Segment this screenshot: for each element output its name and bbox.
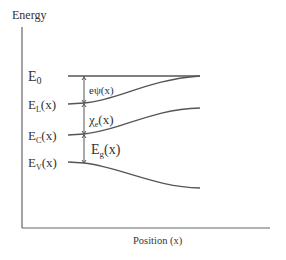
level-ev-curve	[68, 162, 200, 188]
band-diagram: Energy Position (x) E0 EL(x) EC(x) EV(x)…	[0, 0, 286, 260]
level-ec-curve	[68, 108, 200, 135]
level-el-curve	[68, 76, 200, 104]
label-ev: EV(x)	[28, 155, 57, 172]
label-work-function: eψ(x)	[89, 84, 114, 97]
label-electron-affinity: χe(x)	[88, 112, 114, 129]
label-band-gap: Eg(x)	[91, 142, 121, 159]
label-el: EL(x)	[28, 97, 56, 114]
x-axis-label: Position (x)	[133, 235, 183, 247]
y-axis-label: Energy	[12, 8, 46, 22]
label-ec: EC(x)	[28, 128, 56, 145]
label-e0: E0	[28, 69, 42, 86]
